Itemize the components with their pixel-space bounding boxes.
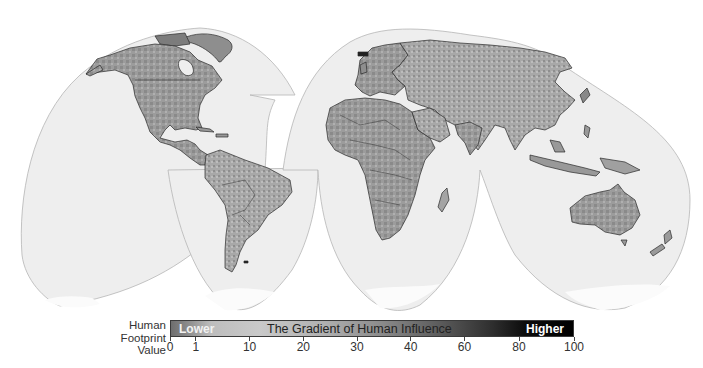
- legend-label-value: Value: [121, 344, 166, 357]
- legend-tick-label: 0: [167, 340, 174, 354]
- legend-label-footprint: Footprint: [121, 332, 166, 345]
- legend-axis-label: Human Footprint Value: [121, 319, 166, 357]
- legend-tick-label: 10: [243, 340, 256, 354]
- world-map: [0, 0, 703, 315]
- legend-tick-label: 30: [350, 340, 363, 354]
- gradient-higher-label: Higher: [526, 322, 564, 336]
- legend-tick-label: 40: [404, 340, 417, 354]
- legend: Human Footprint Value Lower The Gradient…: [0, 316, 703, 368]
- legend-tick-label: 100: [564, 340, 584, 354]
- gradient-title: The Gradient of Human Influence: [267, 322, 452, 336]
- legend-tick-label: 20: [297, 340, 310, 354]
- legend-tick-label: 60: [458, 340, 471, 354]
- gradient-lower-label: Lower: [179, 322, 214, 336]
- legend-label-human: Human: [121, 319, 166, 332]
- gradient-bar: Lower The Gradient of Human Influence Hi…: [170, 320, 574, 337]
- legend-tick-label: 1: [193, 340, 200, 354]
- legend-tick-label: 80: [512, 340, 525, 354]
